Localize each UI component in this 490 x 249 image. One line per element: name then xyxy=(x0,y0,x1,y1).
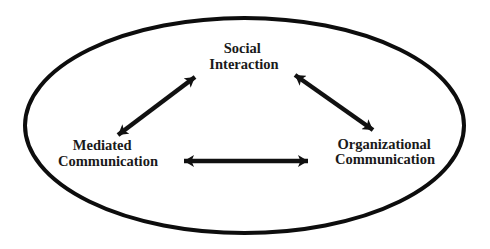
node-mediated-communication: Mediated Communication xyxy=(58,137,158,169)
node-mediated-communication-line2: Communication xyxy=(58,153,158,169)
arrow-social-organizational-icon xyxy=(295,75,373,130)
node-mediated-communication-line1: Mediated xyxy=(73,137,132,153)
node-organizational-communication-line1: Organizational xyxy=(337,136,430,152)
node-social-interaction-line2: Interaction xyxy=(209,56,278,72)
arrow-social-mediated-icon xyxy=(118,77,195,135)
node-organizational-communication: Organizational Communication xyxy=(335,136,435,167)
node-social-interaction: Social Interaction xyxy=(209,40,278,72)
node-organizational-communication-line2: Communication xyxy=(335,151,435,167)
node-social-interaction-line1: Social xyxy=(224,40,261,56)
diagram-canvas: Social Interaction Mediated Communicatio… xyxy=(0,0,490,249)
